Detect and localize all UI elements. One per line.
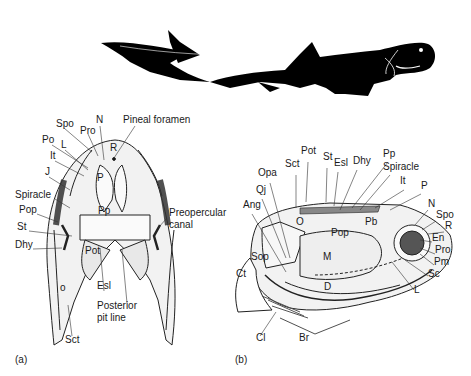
panel-a-caption: (a) [15,354,27,365]
label-o: o [60,282,66,293]
label-sc: Sc [428,268,440,279]
label-spiracle: Spiracle [383,161,419,172]
label-pro: Pro [435,244,451,255]
label-pot: Pot [85,245,100,256]
label-p: P [97,172,104,183]
label-r: R [110,142,117,153]
label-r: R [445,220,452,231]
label-qj: Qj [256,184,266,195]
label-po: Po [42,134,54,145]
label-n: N [96,114,103,125]
label-p: P [421,180,428,191]
label-st: St [323,151,332,162]
label-m: M [323,251,331,262]
label-it: It [400,175,406,186]
panel-b-caption: (b) [235,354,247,365]
label-ang: Ang [243,199,261,210]
label-l: L [414,284,420,295]
label-canal: canal [169,219,193,230]
label-esl: Esl [97,280,111,291]
label-pot: Pot [301,145,316,156]
label-st: St [17,221,26,232]
label-posterior: Posterior [97,300,137,311]
panel-b-skull-drawing [236,203,452,334]
label-br: Br [299,332,309,343]
label-pineal-foramen: Pineal foramen [123,114,190,125]
label-sct: Sct [285,158,299,169]
label-spo: Spo [56,118,74,129]
label-en: En [432,232,444,243]
label-esl: Esl [334,157,348,168]
figure-artwork [0,0,471,376]
fish-silhouette-icon [101,30,435,96]
label-o: O [296,216,304,227]
label-pop: Pop [19,204,37,215]
label-n: N [428,198,435,209]
label-j: J [45,166,50,177]
label-l: L [61,139,67,150]
label-ct: Ct [236,268,246,279]
label-sct: Sct [65,334,79,345]
label-pit-line: pit line [97,312,126,323]
label-pop: Pop [331,227,349,238]
label-it: It [50,150,56,161]
label-sop: Sop [251,251,269,262]
label-pp: Pp [383,148,395,159]
label-preopercular: Preopercular [169,207,226,218]
label-dhy: Dhy [353,155,371,166]
label-cl: Cl [256,332,265,343]
label-pm: Pm [434,256,449,267]
label-spo: Spo [436,209,454,220]
label-dhy: Dhy [15,239,33,250]
label-d: D [324,281,331,292]
label-spiracle: Spiracle [15,189,51,200]
label-opa: Opa [258,167,277,178]
label-pp: Pp [98,205,110,216]
label-pb: Pb [365,216,377,227]
label-pro: Pro [80,125,96,136]
